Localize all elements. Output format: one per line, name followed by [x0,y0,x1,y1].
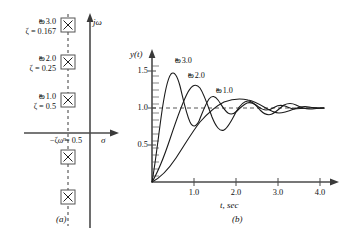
x-tick-label-0: 1.0 [182,188,206,197]
pole-annotation-wn1: ωn = 1.0 ζ = 0.5 [0,92,56,113]
pole-annotation-wn3: ωn = 3.0 ζ = 0.167 [0,17,56,38]
pole-annotation-wn1-zeta: ζ = 0.5 [0,102,56,112]
panel-a-pole-plot: jω σ ωn = 3.0 ζ = 0.167 ωn = 2.0 ζ = 0.2… [0,0,128,240]
figure-root: jω σ ωn = 3.0 ζ = 0.167 ωn = 2.0 ζ = 0.2… [0,0,357,240]
pole-annotation-wn1-wn: ωn = 1.0 [0,92,56,102]
y-tick-label-1: 1.0 [128,103,148,112]
y-tick-label-2: 1.5 [128,66,148,75]
imaginary-axis [87,13,94,228]
pole-marker [61,93,75,107]
damping-sigma-annotation: −ζωn = 0.5 [8,136,82,146]
pole-marker [61,150,75,164]
pole-marker [61,190,75,204]
pole-marker [61,55,75,69]
response-curve-wn3 [152,73,324,182]
response-curve-wn2 [152,85,324,182]
x-axis [152,179,339,186]
response-curve-wn1 [152,99,324,182]
pole-annotation-wn3-wn: ωn = 3.0 [0,17,56,27]
pole-marker [61,18,75,32]
panel-a-caption: (a) [56,214,67,224]
x-axis-arrow [330,179,339,186]
x-tick-label-3: 4.0 [308,188,332,197]
pole-annotation-wn2-zeta: ζ = 0.25 [0,64,56,74]
x-axis-label: t, sec [220,200,239,210]
pole-annotation-wn2: ωn = 2.0 ζ = 0.25 [0,54,56,75]
pole-annotation-wn2-wn: ωn = 2.0 [0,54,56,64]
x-tick-label-1: 2.0 [224,188,248,197]
panel-b-caption: (b) [232,214,243,224]
y-tick-label-0: 0.5 [128,140,148,149]
curve-label-wn1: ωn = 1.0 [216,86,233,95]
y-axis-arrow [149,49,156,58]
imaginary-axis-label: jω [93,17,102,27]
real-axis-label: σ [101,135,105,145]
panel-b-step-response-plot: y(t) 0.5 1.0 1.5 1.0 2.0 3.0 4.0 t, sec … [128,0,357,240]
real-axis-arrow [110,130,119,137]
pole-annotation-wn3-zeta: ζ = 0.167 [0,27,56,37]
panel-b-canvas [128,0,357,240]
curve-label-wn2: ωn = 2.0 [188,71,205,80]
y-axis-label: y(t) [130,49,143,59]
curve-label-wn3: ωn = 3.0 [175,56,192,65]
x-tick-label-2: 3.0 [266,188,290,197]
